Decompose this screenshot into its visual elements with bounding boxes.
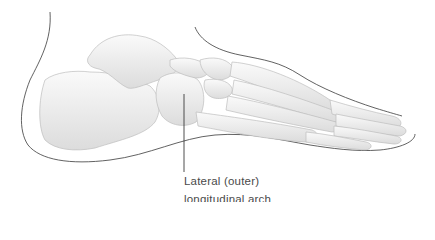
arch-label-line1: Lateral (outer) — [184, 172, 271, 190]
bones — [40, 35, 406, 150]
arch-label: Lateral (outer) longitudinal arch — [184, 172, 271, 202]
cuneiform-2 — [204, 79, 232, 98]
arch-label-line2: longitudinal arch — [184, 190, 271, 202]
cuneiform-1 — [200, 58, 233, 80]
